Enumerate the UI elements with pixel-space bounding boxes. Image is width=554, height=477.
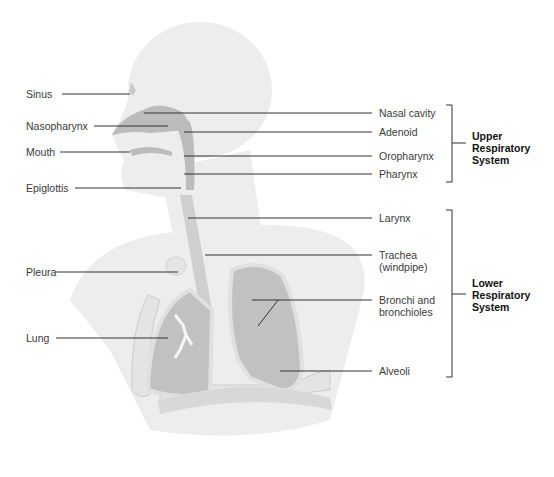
group-upper-line1: Upper bbox=[472, 130, 530, 142]
group-upper-line2: Respiratory bbox=[472, 142, 530, 154]
label-lung: Lung bbox=[26, 332, 49, 344]
label-sinus: Sinus bbox=[26, 88, 52, 100]
label-bronchioles: bronchioles bbox=[379, 306, 433, 318]
label-trachea: Trachea bbox=[379, 249, 417, 261]
label-trachea-windpipe: (windpipe) bbox=[379, 261, 427, 273]
group-lower-line1: Lower bbox=[472, 277, 530, 289]
label-nasopharynx: Nasopharynx bbox=[26, 120, 88, 132]
label-pleura: Pleura bbox=[26, 266, 56, 278]
respiratory-diagram: Sinus Nasopharynx Mouth Epiglottis Pleur… bbox=[0, 0, 554, 477]
label-epiglottis: Epiglottis bbox=[26, 182, 69, 194]
label-oropharynx: Oropharynx bbox=[379, 150, 434, 162]
label-mouth: Mouth bbox=[26, 146, 55, 158]
label-alveoli: Alveoli bbox=[379, 365, 410, 377]
anatomy-illustration bbox=[0, 0, 554, 477]
group-lower-respiratory: Lower Respiratory System bbox=[472, 277, 530, 313]
label-bronchi: Bronchi and bbox=[379, 294, 435, 306]
group-upper-line3: System bbox=[472, 154, 530, 166]
label-pharynx: Pharynx bbox=[379, 168, 418, 180]
label-nasal-cavity: Nasal cavity bbox=[379, 107, 436, 119]
group-upper-respiratory: Upper Respiratory System bbox=[472, 130, 530, 166]
label-larynx: Larynx bbox=[379, 212, 411, 224]
group-lower-line2: Respiratory bbox=[472, 289, 530, 301]
group-lower-line3: System bbox=[472, 301, 530, 313]
label-adenoid: Adenoid bbox=[379, 126, 418, 138]
